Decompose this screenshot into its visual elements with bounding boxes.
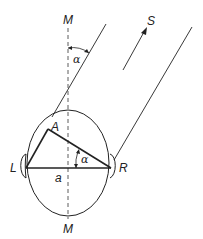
label-angle-inner: α [81,153,89,166]
segment-l-a [26,129,48,168]
label-baseline: a [55,171,62,185]
label-right-ear: R [119,161,128,175]
sound-ray-right [114,27,192,160]
right-ear [110,154,115,178]
label-point-a: A [50,120,59,134]
arc-arrow-icon [68,46,72,50]
label-left-ear: L [10,161,17,175]
label-angle-top: α [73,53,81,66]
arc-arrow-icon [76,149,80,154]
segment-a-r [48,129,111,168]
arrowhead-icon [141,27,147,35]
label-source: S [147,14,155,28]
left-ear [21,154,26,178]
arc-arrow-icon [84,49,89,53]
label-median-bottom: M [63,222,73,236]
sound-localization-diagram: M M S α α A L R a [0,0,203,239]
sound-ray-left [52,24,106,117]
source-direction-arrow [123,32,144,70]
label-median-top: M [63,13,73,27]
